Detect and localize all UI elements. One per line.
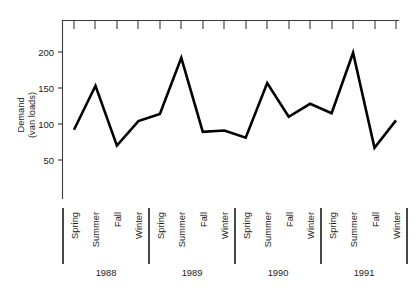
y-axis-title-line1: Demand	[16, 97, 26, 132]
x-axis-year-labels: 1988 1989 1990 1991	[96, 268, 375, 278]
season-label-1989-winter: Winter	[220, 212, 230, 239]
y-axis-title: Demand (van loads)	[16, 92, 37, 138]
season-label-1990-winter: Winter	[306, 212, 316, 239]
year-label-1988: 1988	[96, 268, 117, 278]
season-label-1990-spring: Spring	[242, 212, 252, 239]
season-label-1991-winter: Winter	[392, 212, 402, 239]
ytick-label-100: 100	[38, 119, 54, 130]
y-axis-title-line2: (van loads)	[27, 92, 37, 138]
plot-axes	[62, 20, 399, 199]
ytick-label-150: 150	[38, 83, 54, 94]
chart-figure: 200 150 100 50 Demand (van loads) Spring…	[0, 0, 419, 293]
year-label-1989: 1989	[182, 268, 203, 278]
season-label-1991-summer: Summer	[349, 212, 359, 247]
season-label-1990-fall: Fall	[285, 212, 295, 227]
season-label-1989-fall: Fall	[199, 212, 209, 227]
top-tick-marks	[74, 20, 396, 29]
year-label-1991: 1991	[354, 268, 375, 278]
demand-series-line	[74, 53, 396, 148]
season-label-1989-spring: Spring	[156, 212, 166, 239]
season-label-1988-fall: Fall	[113, 212, 123, 227]
season-label-1990-summer: Summer	[263, 212, 273, 247]
season-label-1991-spring: Spring	[328, 212, 338, 239]
demand-line-chart: 200 150 100 50 Demand (van loads) Spring…	[0, 0, 419, 293]
ytick-label-50: 50	[43, 155, 54, 166]
season-label-1989-summer: Summer	[177, 212, 187, 247]
ytick-label-200: 200	[38, 47, 54, 58]
season-label-1988-winter: Winter	[134, 212, 144, 239]
season-label-1991-fall: Fall	[371, 212, 381, 227]
season-label-1988-summer: Summer	[91, 212, 101, 247]
year-label-1990: 1990	[268, 268, 289, 278]
season-label-1988-spring: Spring	[70, 212, 80, 239]
